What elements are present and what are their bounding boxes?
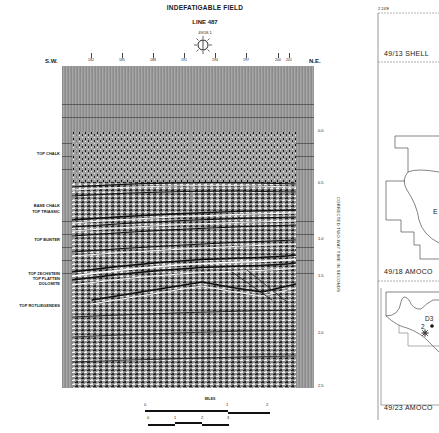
scale-bar-title: MILES — [140, 397, 280, 401]
licence-block-label: 49/18 AMOCO — [384, 268, 433, 275]
scale-tick: 1 — [226, 402, 228, 407]
well-label-2: 2 — [421, 323, 425, 330]
horizon-label: BASE CHALK — [34, 203, 60, 208]
shotpoint-marker: ↑182 — [83, 49, 99, 62]
horizon-label: TOP BUNTER — [34, 237, 60, 242]
shotpoint-marker: ↑191 — [176, 49, 192, 62]
longitude-label: 2 24'E — [378, 6, 389, 11]
scale-tick: 2 — [266, 402, 268, 407]
southwest-label: S.W. — [45, 58, 58, 64]
licence-block-label: 49/13 SHELL — [384, 50, 429, 57]
horizon-label: TOP ROTLIEGENDES — [19, 303, 60, 308]
well-label-d3: D3 — [425, 315, 433, 322]
time-tick-label: 0.5 — [318, 180, 324, 185]
shotpoint-marker: ↑185 — [114, 49, 130, 62]
horizon-label: TOP CHALK — [37, 151, 60, 156]
time-tick-label: 2.0 — [318, 330, 324, 335]
scale-tick: 2 — [201, 415, 203, 420]
km-bar-segment — [148, 424, 175, 426]
seismic-section — [62, 66, 314, 388]
time-tick-label: 2.5 — [318, 383, 324, 388]
seismic-reflection-data — [72, 132, 296, 388]
shotpoint-marker: ↑188 — [145, 49, 161, 62]
northeast-label: N.E. — [309, 58, 321, 64]
horizon-label: DOLOMITE — [39, 281, 60, 286]
scale-tick: 1 — [174, 415, 176, 420]
miles-bar-segment — [145, 410, 228, 412]
km-bar-segment — [202, 424, 229, 426]
shotpoint-marker: ↑194 — [207, 49, 223, 62]
time-tick-label: 1.0 — [318, 236, 324, 241]
km-bar-segment — [175, 422, 202, 424]
scale-bar: MILES 0 1 2 0 1 2 3 — [140, 397, 280, 433]
location-map — [377, 0, 439, 433]
horizon-label: TOP TRIASSIC — [32, 209, 60, 214]
shotpoint-marker: ↑197 — [238, 49, 254, 62]
licence-block-label: 49/23 AMOCO — [384, 404, 433, 411]
time-axis-title: CORRECTED TWO-WAY TIME IN SECONDS — [335, 150, 341, 340]
time-tick-label: 0.0 — [318, 128, 324, 133]
seismic-line-label: LINE 487 — [170, 19, 240, 25]
time-tick-label: 1.5 — [318, 273, 324, 278]
scale-tick: 0 — [144, 402, 146, 407]
scale-tick: 0 — [147, 415, 149, 420]
shotpoint-marker: 201 — [281, 49, 297, 62]
scale-tick: 3 — [227, 415, 229, 420]
miles-bar-segment — [228, 412, 270, 414]
field-letter-label: E — [433, 208, 438, 215]
figure-title: INDEFATIGABLE FIELD — [145, 4, 265, 11]
